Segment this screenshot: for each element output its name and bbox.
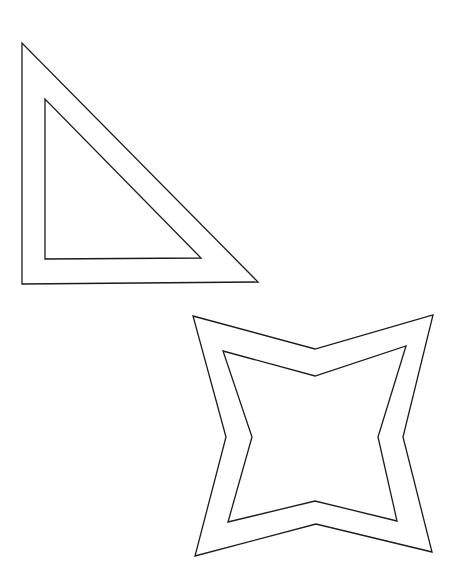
star-frame [193, 315, 433, 556]
triangle-outer-outline [22, 43, 258, 284]
triangle-frame [22, 43, 258, 284]
drawing-canvas [0, 0, 458, 572]
star-inner-outline [223, 346, 406, 522]
triangle-inner-outline [45, 99, 201, 259]
